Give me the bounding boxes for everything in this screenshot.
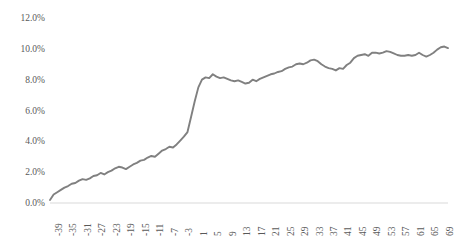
x-axis-tick-label: 17 xyxy=(257,227,267,237)
x-axis-tick-label: 5 xyxy=(213,231,223,236)
x-axis-tick-label: 9 xyxy=(228,231,238,236)
x-axis-tick-label: 25 xyxy=(286,227,296,237)
x-axis-tick-label: 61 xyxy=(416,227,426,237)
x-axis-tick-label: -39 xyxy=(54,223,64,236)
x-axis-tick-label: 45 xyxy=(358,227,368,237)
x-axis-tick-label: 53 xyxy=(387,227,397,237)
x-axis-tick-label: 69 xyxy=(445,227,454,237)
x-axis-tick-label: 37 xyxy=(329,227,339,237)
x-axis-tick-label: 29 xyxy=(300,227,310,237)
x-axis-tick-label: -19 xyxy=(126,223,136,236)
chart-plot-area xyxy=(0,0,454,240)
x-axis-tick-label: -27 xyxy=(97,223,107,236)
x-axis-tick-label: 41 xyxy=(343,227,353,237)
x-axis-tick-label: -3 xyxy=(184,228,194,236)
x-axis-tick-label: 65 xyxy=(430,227,440,237)
x-axis-tick-label: 33 xyxy=(315,227,325,237)
x-axis-tick-label: 49 xyxy=(372,227,382,237)
x-axis-tick-label: -15 xyxy=(141,223,151,236)
x-axis-tick-label: -11 xyxy=(155,224,165,236)
x-axis-tick-label: 13 xyxy=(242,227,252,237)
x-axis-tick-label: 21 xyxy=(271,227,281,237)
x-axis-tick-label: -31 xyxy=(83,223,93,236)
x-axis-tick-label: -35 xyxy=(68,223,78,236)
data-series-line xyxy=(50,47,448,200)
x-axis-tick-label: 1 xyxy=(199,231,209,236)
x-axis-tick-label: -7 xyxy=(170,228,180,236)
x-axis-tick-label: 57 xyxy=(401,227,411,237)
x-axis-tick-label: -23 xyxy=(112,223,122,236)
line-chart: 0.0%2.0%4.0%6.0%8.0%10.0%12.0% -39-35-31… xyxy=(0,0,454,240)
